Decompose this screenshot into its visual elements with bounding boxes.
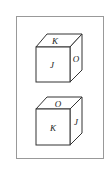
top-cube-top-label: K: [51, 36, 59, 46]
bottom-cube-front-label: K: [49, 123, 57, 133]
bottom-cube-top-label: O: [55, 99, 62, 109]
cube-figure: K J O O K J: [0, 0, 111, 169]
top-cube-right-label: O: [73, 54, 80, 64]
